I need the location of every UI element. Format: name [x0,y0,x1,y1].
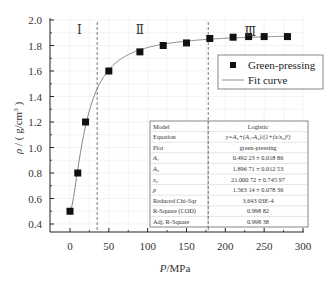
region-labels: ⅠⅡⅢ [77,23,256,40]
table-key: Model [153,123,170,130]
data-point [230,34,237,41]
region-label: Ⅰ [77,23,82,37]
x-axis-title: P/MPa [159,262,191,274]
table-key: Adj. R-Square [153,218,190,225]
data-point [284,33,291,40]
y-tick-label: 0.4 [28,218,42,230]
legend-label-scatter: Green-pressing [248,59,316,71]
table-value: 0.492 23 ± 0.018 86 [233,154,284,161]
data-point [183,39,190,46]
data-point [136,48,143,55]
table-key: Reduced Chi-Sqr [153,197,197,204]
region-label: Ⅱ [136,23,144,37]
data-point [160,42,167,49]
table-key: A₁ [152,154,159,161]
table-key: x₀ [152,176,158,183]
table-value: 21.000 72 ± 0.745 97 [231,176,285,183]
y-tick-label: 1.4 [28,91,42,103]
x-tick-label: 200 [217,240,234,252]
data-point [206,35,213,42]
legend-label-line: Fit curve [248,74,288,86]
x-tick-label: 50 [103,240,115,252]
table-value: Logistic [248,123,269,130]
y-tick-label: 1.0 [28,142,42,154]
data-point [74,170,81,177]
table-key: Equation [153,133,177,140]
legend-square-marker-icon [230,62,236,68]
y-tick-label: 1.8 [28,40,42,52]
data-point [82,119,89,126]
table-value: 0.998 82 [247,207,269,214]
table-value: 1.896 71 ± 0.012 53 [233,165,284,172]
table-value: 0.998 38 [247,218,269,225]
x-tick-label: 300 [295,240,312,252]
table-key: p [152,186,156,193]
y-tick-label: 1.2 [28,116,42,128]
y-axis-title: ρ / ( g/cm3 ) [12,102,25,156]
x-tick-label: 150 [178,240,195,252]
x-tick-label: 0 [67,240,73,252]
y-tick-label: 0.6 [28,193,42,205]
y-tick-label: 1.6 [28,65,42,77]
chart-figure: 0.40.60.81.01.21.41.61.82.00501001502002… [0,0,331,281]
table-value: green-pressing [239,144,277,151]
x-tick-label: 100 [139,240,156,252]
table-value: 1.563 14 ± 0.078 36 [233,186,284,193]
table-key: Plot [153,144,163,151]
table-key: A₂ [152,165,160,172]
table-key: R-Square (COD) [153,207,196,215]
table-value: 3.643 03E-4 [242,197,274,204]
y-tick-label: 2.0 [28,14,42,26]
legend: Green-pressing Fit curve [218,55,323,89]
fit-results-table: ModelLogisticEquationy=A₂+(A₁-A₂)/(1+(x/… [150,121,308,227]
y-tick-label: 0.8 [28,167,42,179]
data-point [261,33,268,40]
table-value: y=A₂+(A₁-A₂)/(1+(x/x₀)ᵖ) [225,133,291,141]
x-tick-label: 250 [256,240,273,252]
region-label: Ⅲ [244,25,256,39]
data-point [105,68,112,75]
data-point [67,208,74,215]
